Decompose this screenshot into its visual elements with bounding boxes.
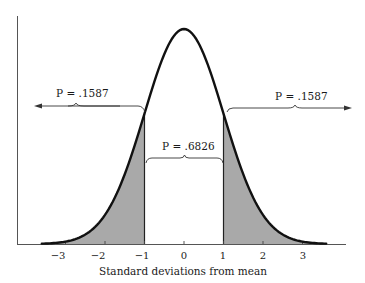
tick-label-3: 3 — [300, 250, 306, 261]
normal-distribution-figure: P = .1587 P = .1587 P = .6826 −3 −2 −1 0… — [0, 0, 365, 283]
right-tail-probability-label: P = .1587 — [275, 90, 328, 102]
left-arrow-icon — [34, 104, 42, 109]
tick-label-1: 1 — [220, 250, 226, 261]
tick-label-2: 2 — [260, 250, 266, 261]
left-brace — [68, 103, 145, 112]
right-arrow-icon — [344, 106, 352, 111]
center-probability-label: P = .6826 — [162, 140, 215, 152]
x-axis-label: Standard deviations from mean — [99, 265, 267, 277]
center-brace — [146, 155, 223, 163]
left-tail-shaded-area — [42, 114, 145, 244]
tick-label-minus-2: −2 — [91, 250, 106, 261]
left-tail-probability-label: P = .1587 — [56, 87, 109, 99]
tick-label-0: 0 — [181, 250, 187, 261]
tick-label-minus-1: −1 — [135, 250, 150, 261]
tick-label-minus-3: −3 — [51, 250, 66, 261]
left-tail-annotation: P = .1587 — [34, 87, 145, 112]
right-tail-shaded-area — [224, 114, 327, 244]
tick-labels: −3 −2 −1 0 1 2 3 — [51, 250, 307, 261]
right-brace — [227, 105, 345, 112]
center-annotation: P = .6826 — [146, 140, 223, 163]
normal-curve — [42, 29, 326, 244]
right-tail-annotation: P = .1587 — [227, 90, 352, 112]
